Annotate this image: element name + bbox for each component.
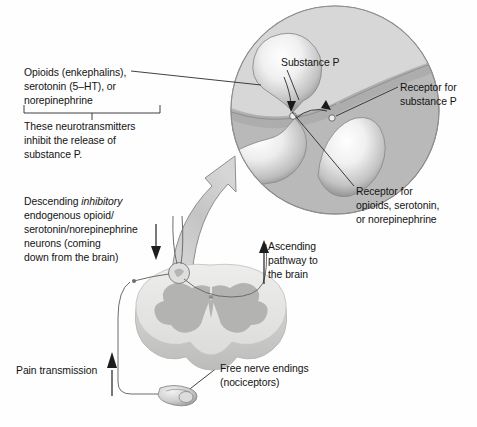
label-descending-emphasis: inhibitory bbox=[81, 196, 122, 207]
label-ascending-line3: the brain bbox=[268, 269, 308, 280]
label-opioids-line3: norepinephrine bbox=[24, 95, 93, 106]
label-receptor-op-line3: or norepinephrine bbox=[356, 214, 437, 225]
label-substance-p: Substance P bbox=[281, 56, 339, 70]
label-descending-prefix: Descending bbox=[24, 196, 81, 207]
label-inhibit-line3: substance P. bbox=[24, 149, 82, 160]
leader-free-nerve bbox=[186, 367, 218, 392]
label-descending-line5: down from the brain) bbox=[24, 252, 118, 263]
diagram-canvas: Opioids (enkephalins),serotonin (5–HT), … bbox=[0, 0, 477, 427]
label-ascending-line1: Ascending bbox=[268, 241, 316, 252]
afferent-cell-marker bbox=[132, 279, 136, 283]
label-opioids-line2: serotonin (5–HT), or bbox=[24, 81, 116, 92]
label-receptor-op-line1: Receptor for bbox=[356, 186, 413, 197]
label-inhibit-line1: These neurotransmitters bbox=[24, 121, 135, 132]
label-pain-transmission: Pain transmission bbox=[16, 364, 97, 378]
label-inhibit-note: These neurotransmittersinhibit the relea… bbox=[24, 120, 135, 162]
label-receptor-op-line2: opioids, serotonin, bbox=[356, 200, 439, 211]
label-descending-line2: endogenous opioid/ bbox=[24, 210, 114, 221]
label-descending-line3: serotonin/norepinephrine bbox=[24, 224, 138, 235]
free-nerve-ending bbox=[158, 386, 197, 406]
label-opioids-line1: Opioids (enkephalins), bbox=[24, 67, 126, 78]
label-descending-pathway: Descending inhibitoryendogenous opioid/s… bbox=[24, 195, 138, 265]
label-receptor-substance-p: Receptor forsubstance P bbox=[400, 81, 457, 109]
label-ascending-pathway: Ascendingpathway tothe brain bbox=[268, 240, 318, 282]
label-ascending-line2: pathway to bbox=[268, 255, 318, 266]
substance-p-receptor-site bbox=[329, 115, 335, 121]
label-descending-line4: neurons (coming bbox=[24, 238, 101, 249]
label-free-nerve-line1: Free nerve endings bbox=[220, 363, 309, 374]
descending-arrow-head bbox=[151, 246, 161, 260]
label-free-nerve-line2: (nociceptors) bbox=[220, 377, 279, 388]
label-receptor-opioids: Receptor foropioids, serotonin,or norepi… bbox=[356, 185, 439, 227]
pain-transmission-arrow-head bbox=[107, 352, 117, 368]
label-receptor-sp-line2: substance P bbox=[400, 96, 457, 107]
label-inhibit-line2: inhibit the release of bbox=[24, 135, 116, 146]
nerve-ending-bulb bbox=[179, 392, 193, 403]
label-free-nerve-endings: Free nerve endings(nociceptors) bbox=[220, 362, 309, 390]
label-opioids: Opioids (enkephalins),serotonin (5–HT), … bbox=[24, 66, 126, 108]
label-receptor-sp-line1: Receptor for bbox=[400, 82, 457, 93]
central-canal bbox=[209, 295, 213, 299]
